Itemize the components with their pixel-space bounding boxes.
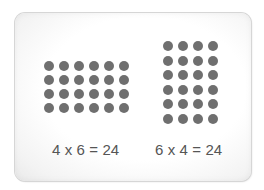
- dot: [163, 85, 173, 95]
- dot: [208, 99, 218, 109]
- dot: [89, 61, 99, 71]
- dot: [59, 89, 69, 99]
- dot: [104, 103, 114, 113]
- dot: [89, 75, 99, 85]
- dot: [74, 89, 84, 99]
- dot: [89, 89, 99, 99]
- dot: [193, 70, 203, 80]
- dot: [74, 103, 84, 113]
- dot: [119, 103, 129, 113]
- dot: [44, 75, 54, 85]
- dot: [104, 61, 114, 71]
- dot: [59, 103, 69, 113]
- dot: [193, 114, 203, 124]
- dot: [163, 41, 173, 51]
- dot: [178, 70, 188, 80]
- dot: [74, 61, 84, 71]
- dot: [193, 41, 203, 51]
- equation-label-4x6: 4 x 6 = 24: [52, 141, 119, 158]
- diagram-card: 4 x 6 = 24 6 x 4 = 24: [15, 13, 251, 181]
- dot: [59, 75, 69, 85]
- dot: [119, 89, 129, 99]
- dot: [89, 103, 99, 113]
- dot: [163, 70, 173, 80]
- dot: [208, 114, 218, 124]
- dot: [74, 75, 84, 85]
- equation-label-6x4: 6 x 4 = 24: [155, 141, 222, 158]
- dot: [44, 89, 54, 99]
- dot: [178, 41, 188, 51]
- dot: [208, 70, 218, 80]
- dot: [59, 61, 69, 71]
- dot: [119, 75, 129, 85]
- dot: [44, 61, 54, 71]
- dot: [208, 85, 218, 95]
- dot: [163, 99, 173, 109]
- dot: [178, 56, 188, 66]
- dot: [178, 114, 188, 124]
- dot: [193, 85, 203, 95]
- dot: [163, 114, 173, 124]
- dot: [44, 103, 54, 113]
- dot: [193, 56, 203, 66]
- dot: [178, 99, 188, 109]
- dot: [208, 56, 218, 66]
- dot: [163, 56, 173, 66]
- dot: [104, 89, 114, 99]
- dot-array-6x4: [163, 41, 218, 124]
- dot: [104, 75, 114, 85]
- dot: [178, 85, 188, 95]
- dot-array-4x6: [44, 61, 129, 113]
- dot: [208, 41, 218, 51]
- dot: [193, 99, 203, 109]
- dot: [119, 61, 129, 71]
